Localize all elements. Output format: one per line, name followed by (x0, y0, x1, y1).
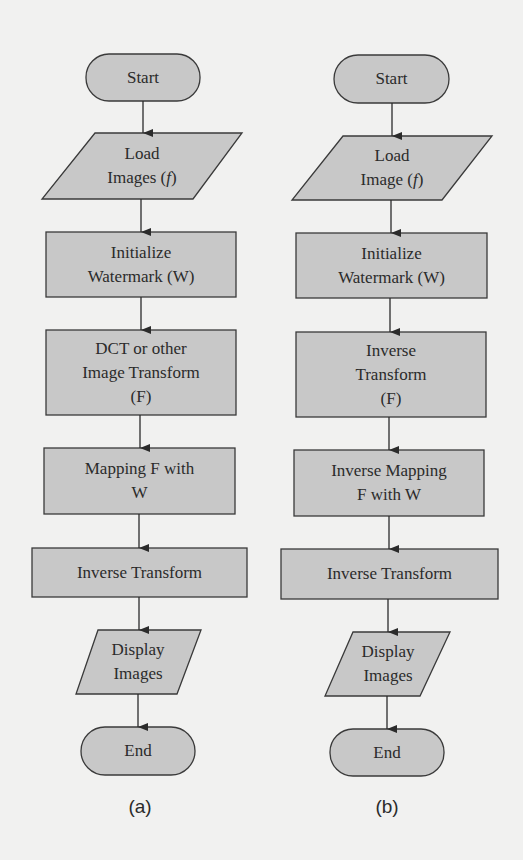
end-label-b: End (330, 729, 444, 776)
end-label-a: End (81, 727, 195, 775)
load-images-label-a: Load Images (f) (62, 133, 222, 199)
load-image-label-b: Load Image (f) (312, 136, 472, 200)
initialize-watermark-label-b: Initialize Watermark (W) (296, 233, 487, 298)
start-label-a: Start (86, 54, 200, 101)
flowchart-canvas (0, 0, 523, 860)
inverse-transform-label-b: Inverse Transform (281, 549, 498, 599)
inverse-mapping-label-b: Inverse Mapping F with W (294, 450, 484, 516)
caption-b: (b) (357, 796, 417, 818)
display-images-label-b: Display Images (338, 632, 438, 696)
mapping-label-a: Mapping F with W (44, 448, 235, 514)
start-label-b: Start (334, 55, 449, 103)
display-images-label-a: Display Images (88, 630, 188, 694)
inverse-transform-f-label-b: Inverse Transform (F) (296, 332, 486, 417)
initialize-watermark-label-a: Initialize Watermark (W) (46, 232, 236, 297)
caption-a: (a) (110, 796, 170, 818)
dct-transform-label-a: DCT or other Image Transform (F) (46, 330, 236, 415)
inverse-transform-label-a: Inverse Transform (32, 548, 247, 597)
